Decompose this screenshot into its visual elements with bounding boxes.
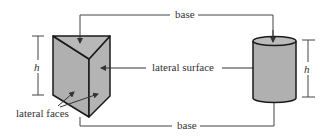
height-dimension-left: h (32, 36, 44, 95)
lateral-faces-label: lateral faces (16, 107, 69, 119)
cylinder (253, 30, 296, 103)
height-label-right: h (304, 63, 310, 75)
base-label-bottom: base (177, 119, 197, 131)
lateral-surface-callout: lateral surface (101, 61, 270, 73)
height-label-left: h (34, 61, 40, 73)
height-dimension-right: h (302, 40, 315, 97)
base-label-top: base (175, 8, 195, 20)
solids-diagram: h lateral faces lateral surface h base b… (0, 0, 330, 137)
lateral-surface-label: lateral surface (152, 61, 214, 73)
triangular-prism (53, 36, 110, 117)
